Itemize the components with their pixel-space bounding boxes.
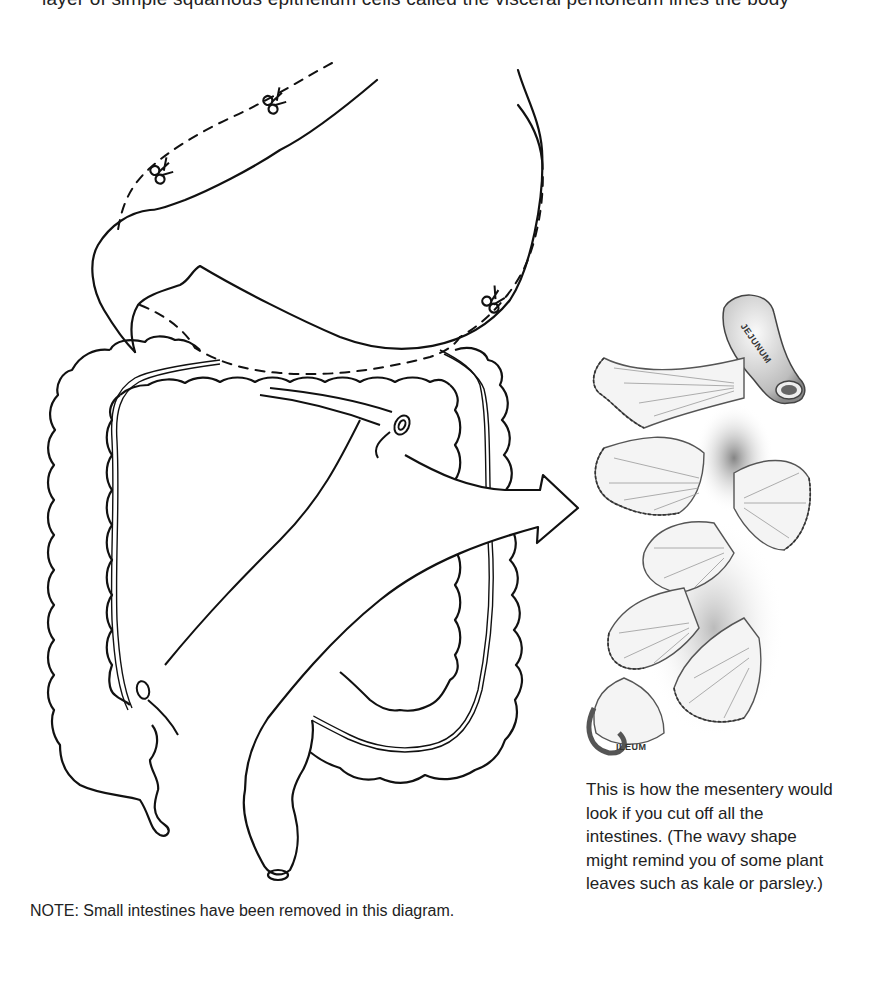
arrow-right-icon (244, 455, 578, 874)
cut-line-lower (140, 305, 460, 374)
mesentery-illustration: JEJUNUM ILEUM (584, 288, 820, 758)
ileum-cut-end (135, 680, 151, 700)
ligament-strand (376, 432, 390, 458)
jejunum-cut-end (391, 413, 412, 437)
duodenojejunal-tube (260, 395, 380, 425)
partial-text-line: layer of simple squamous epithelium cell… (42, 0, 789, 10)
scissors-icon (148, 157, 176, 185)
illustration-caption: This is how the mesentery would look if … (586, 778, 836, 896)
taenia-left-a (112, 360, 220, 710)
colon-inner-top (120, 378, 450, 396)
mesentery-root-line (165, 420, 360, 665)
digestive-tract-diagram (0, 40, 580, 900)
colon-inner-left (107, 395, 130, 705)
colon-outer-left (48, 350, 169, 836)
ileum-strand (148, 700, 178, 735)
ileum-label: ILEUM (616, 742, 647, 752)
scissors-icon (479, 286, 509, 316)
cut-line-upper (118, 63, 332, 230)
taenia-left-b (117, 364, 220, 708)
diagram-note: NOTE: Small intestines have been removed… (30, 902, 454, 920)
